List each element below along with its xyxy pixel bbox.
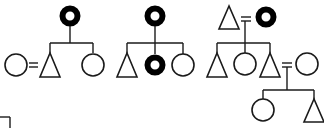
pedigree-2 — [117, 9, 194, 78]
filled-ring-icon — [148, 9, 163, 24]
female-circle-icon — [82, 54, 104, 76]
female-circle-icon — [296, 53, 318, 75]
filled-ring-icon — [63, 9, 78, 24]
pedigree-diagram — [0, 0, 324, 128]
marriage-equals-icon — [282, 63, 292, 67]
filled-ring-icon — [259, 10, 274, 25]
affected-female-parent — [63, 9, 78, 24]
pedigree-3 — [207, 6, 324, 122]
male-triangle-icon — [40, 53, 60, 77]
male-triangle-icon — [219, 6, 239, 29]
marriage-equals-icon — [29, 63, 38, 67]
filled-ring-icon — [148, 58, 163, 73]
female-circle-icon — [234, 53, 256, 75]
female-circle-icon — [172, 54, 194, 76]
cropped-line-fragment — [0, 117, 10, 128]
male-triangle-icon — [304, 99, 324, 122]
female-circle-icon — [5, 54, 27, 76]
male-triangle-icon — [207, 53, 227, 77]
male-triangle-icon — [260, 53, 280, 77]
male-triangle-icon — [117, 53, 137, 77]
female-circle-icon — [252, 99, 274, 121]
pedigree-1 — [5, 9, 104, 78]
marriage-equals-icon — [241, 17, 251, 21]
